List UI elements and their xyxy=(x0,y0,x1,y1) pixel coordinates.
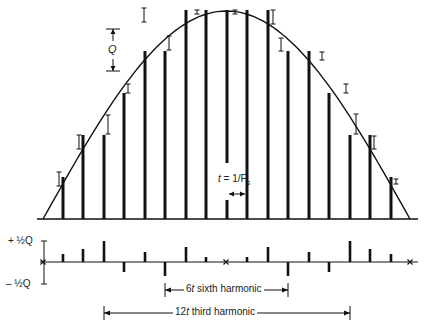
arrow-down-icon xyxy=(111,66,116,71)
plus-half-q-label: + ½Q xyxy=(8,236,33,246)
sample-bars xyxy=(63,10,391,219)
arrow-left-icon xyxy=(104,311,110,316)
arrow-right-icon xyxy=(240,192,245,197)
arrow-right-icon xyxy=(282,288,288,293)
error-signal-plot xyxy=(40,241,418,284)
q-label: Q xyxy=(108,44,117,55)
sample-interval-label: t = 1/Fs xyxy=(218,174,250,186)
quantization-diagram xyxy=(0,0,428,331)
arrow-right-icon xyxy=(344,311,350,316)
arrow-left-icon xyxy=(165,288,171,293)
arrow-left-icon xyxy=(229,192,234,197)
arrow-up-icon xyxy=(111,29,116,34)
sixth-harmonic-label: 6t sixth harmonic xyxy=(184,284,264,294)
minus-half-q-label: – ½Q xyxy=(6,279,30,289)
third-harmonic-label: 12t third harmonic xyxy=(173,307,257,317)
sample-interval-marker xyxy=(229,192,245,197)
